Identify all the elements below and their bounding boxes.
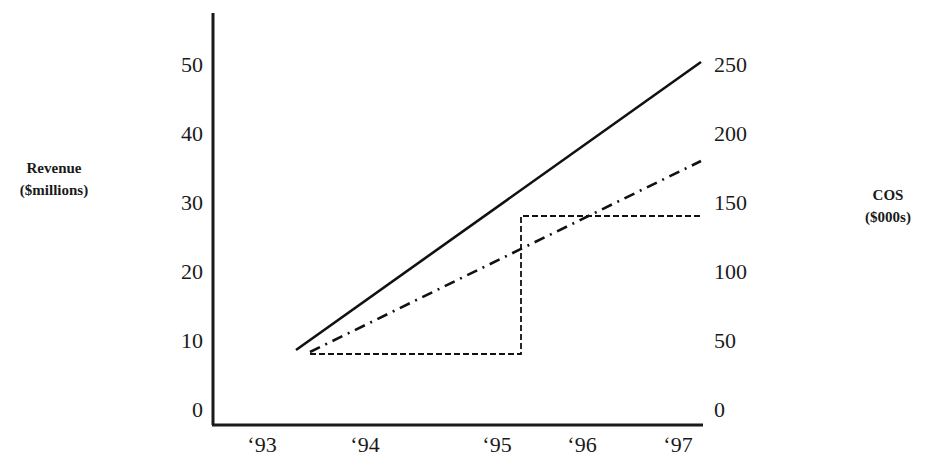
y-ticks-right: 250 200 150 100 50 0: [714, 52, 747, 422]
tick-label: 0: [714, 397, 725, 422]
tick-label: 100: [714, 259, 747, 284]
y-ticks-left: 50 40 30 20 10 0: [181, 52, 203, 422]
series-cos-step-dashed: [310, 216, 701, 354]
svg-text:($000s): ($000s): [865, 209, 911, 226]
tick-label: ‘97: [663, 432, 692, 457]
svg-text:($millions): ($millions): [20, 182, 88, 199]
tick-label: 200: [714, 121, 747, 146]
tick-label: ‘93: [247, 432, 276, 457]
chart: 50 40 30 20 10 0 250 200 150 100 50 0 ‘9…: [0, 0, 929, 466]
tick-label: ‘95: [482, 432, 511, 457]
svg-text:COS: COS: [873, 187, 904, 203]
x-ticks: ‘93 ‘94 ‘95 ‘96 ‘97: [247, 432, 692, 457]
tick-label: 10: [181, 328, 203, 353]
tick-label: 50: [181, 52, 203, 77]
tick-label: 20: [181, 259, 203, 284]
series-revenue-solid: [296, 62, 701, 350]
tick-label: 250: [714, 52, 747, 77]
y-axis-title-right: COS ($000s): [865, 187, 911, 226]
tick-label: 50: [714, 328, 736, 353]
svg-text:Revenue: Revenue: [27, 160, 82, 176]
tick-label: 150: [714, 190, 747, 215]
tick-label: 40: [181, 121, 203, 146]
tick-label: 0: [192, 397, 203, 422]
tick-label: ‘96: [567, 432, 596, 457]
series-cos-dashdot: [310, 161, 701, 352]
tick-label: 30: [181, 190, 203, 215]
tick-label: ‘94: [350, 432, 379, 457]
y-axis-title-left: Revenue ($millions): [20, 160, 88, 199]
